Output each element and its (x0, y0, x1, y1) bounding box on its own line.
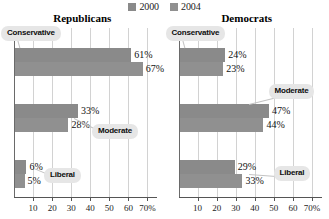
axis-layer: 10203040506070% (14, 28, 157, 197)
axis-tick-label: 20 (48, 203, 57, 213)
axis-tick-label: 20 (212, 203, 221, 213)
axis-tick-label: 70% (139, 203, 156, 213)
chart-panels: Republicans 61%67%33%28%6%5% Conservativ… (0, 12, 329, 219)
y-axis-line (14, 28, 15, 197)
axis-tick-label: 10 (29, 203, 38, 213)
legend-label-2004: 2004 (181, 2, 201, 12)
x-axis-line (14, 197, 157, 198)
panel-democrats: Democrats 24%23%47%44%29%33% Conservativ… (165, 12, 329, 219)
axis-tick-label: 40 (86, 203, 95, 213)
legend-label-2000: 2000 (139, 2, 159, 12)
axis-tick-label: 50 (105, 203, 114, 213)
panel-title: Republicans (0, 12, 165, 25)
axis-tick-label: 40 (250, 203, 259, 213)
plot-area-democrats: 24%23%47%44%29%33% ConservativeModerateL… (179, 28, 322, 197)
y-axis-line (179, 28, 180, 197)
plot-area-republicans: 61%67%33%28%6%5% ConservativeModerateLib… (14, 28, 157, 197)
callout-label-moderate: Moderate (269, 84, 315, 99)
callout-label-liberal: Liberal (274, 166, 311, 181)
axis-tick-label: 60 (124, 203, 133, 213)
panel-title: Democrats (165, 12, 329, 25)
legend-entry-2004: 2004 (170, 2, 201, 12)
legend-swatch-icon (170, 3, 178, 11)
axis-tick-label: 60 (288, 203, 297, 213)
x-axis-line (179, 197, 322, 198)
axis-tick-label: 10 (193, 203, 202, 213)
axis-tick-label: 30 (231, 203, 240, 213)
callout-label-moderate: Moderate (92, 124, 138, 139)
legend-entry-2000: 2000 (128, 2, 159, 12)
axis-tick-label: 50 (269, 203, 278, 213)
axis-tick-label: 30 (67, 203, 76, 213)
callout-label-liberal: Liberal (44, 168, 81, 183)
panel-republicans: Republicans 61%67%33%28%6%5% Conservativ… (0, 12, 165, 219)
axis-tick-label: 70% (304, 203, 321, 213)
legend-swatch-icon (128, 3, 136, 11)
callout-label-conservative: Conservative (166, 26, 226, 41)
callout-label-conservative: Conservative (1, 26, 61, 41)
